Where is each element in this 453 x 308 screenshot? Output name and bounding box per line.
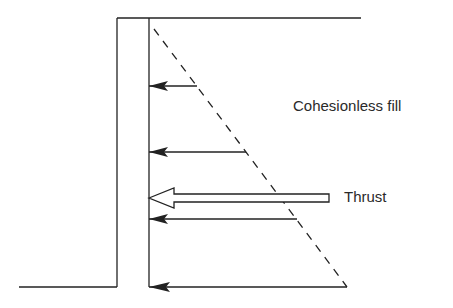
fill-label: Cohesionless fill — [293, 97, 401, 114]
pressure-envelope-dashed — [154, 29, 347, 287]
retaining-wall-diagram — [0, 0, 453, 308]
thrust-arrow — [149, 188, 329, 208]
thrust-label: Thrust — [344, 188, 387, 205]
